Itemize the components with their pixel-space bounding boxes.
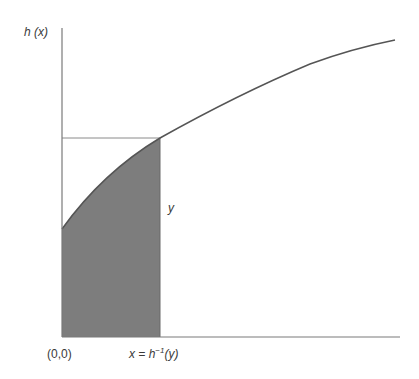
y-axis-label: h (x) (24, 25, 48, 39)
shaded-area (62, 138, 160, 337)
x-point-label: x = h−1(y) (128, 346, 178, 361)
origin-label: (0,0) (47, 347, 72, 361)
segment-label-y: y (167, 201, 175, 215)
diagram-canvas: h (x) y (0,0) x = h−1(y) (0, 0, 419, 379)
